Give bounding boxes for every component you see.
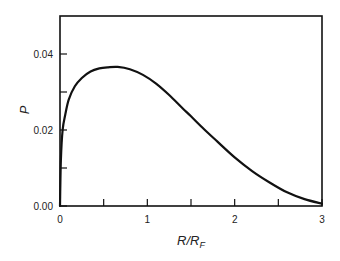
data-curve <box>60 67 322 206</box>
x-tick-label: 2 <box>232 214 238 225</box>
plot-frame <box>60 16 322 206</box>
y-tick-label: 0.02 <box>34 125 54 136</box>
chart: 0123 0.000.020.04 R/RF P <box>0 0 340 261</box>
y-axis-label: P <box>17 105 32 114</box>
x-tick-label: 0 <box>57 214 63 225</box>
x-tick-label: 3 <box>319 214 325 225</box>
x-tick-label: 1 <box>145 214 151 225</box>
y-tick-label: 0.00 <box>34 201 54 212</box>
x-axis-ticks: 0123 <box>57 199 325 225</box>
y-tick-label: 0.04 <box>34 49 54 60</box>
x-axis-label: R/RF <box>177 233 205 250</box>
